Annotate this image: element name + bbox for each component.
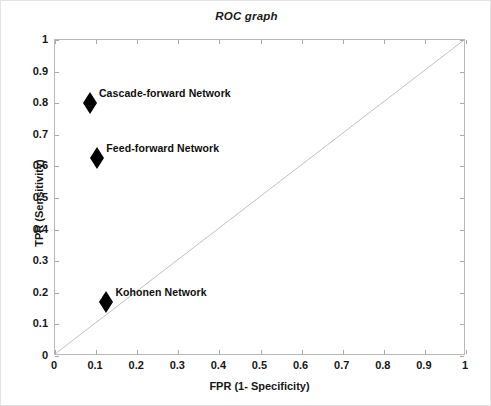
y-tick-mark	[55, 166, 59, 167]
y-tick-mark	[55, 324, 59, 325]
x-tick-label: 0.5	[252, 359, 267, 371]
x-tick-mark	[302, 350, 303, 354]
y-tick-mark	[55, 261, 59, 262]
y-tick-mark-right	[460, 356, 464, 357]
y-tick-mark-right	[460, 72, 464, 73]
y-tick-mark-right	[460, 230, 464, 231]
point-annotation-label: Feed-forward Network	[106, 142, 219, 154]
x-tick-label: 0	[51, 359, 57, 371]
point-annotation-label: Cascade-forward Network	[99, 87, 231, 99]
x-tick-mark-top	[302, 40, 303, 44]
y-tick-mark-right	[460, 198, 464, 199]
y-tick-mark	[55, 293, 59, 294]
y-tick-mark-right	[460, 40, 464, 41]
y-tick-mark-right	[460, 261, 464, 262]
point-annotation-label: Kohonen Network	[115, 286, 206, 298]
x-tick-mark-top	[219, 40, 220, 44]
y-tick-mark	[55, 135, 59, 136]
x-tick-mark	[219, 350, 220, 354]
x-tick-mark-top	[178, 40, 179, 44]
y-tick-label: 0.9	[33, 65, 48, 77]
y-axis-title: TPR (Sensitivity)	[33, 103, 45, 303]
x-tick-label: 0.9	[416, 359, 431, 371]
x-tick-mark	[137, 350, 138, 354]
x-tick-mark-top	[96, 40, 97, 44]
x-tick-label: 0.2	[129, 359, 144, 371]
y-tick-label: 1	[42, 33, 48, 45]
plot-area: Cascade-forward NetworkFeed-forward Netw…	[54, 39, 465, 355]
y-tick-label: 0.1	[33, 317, 48, 329]
x-tick-mark-top	[261, 40, 262, 44]
y-tick-mark	[55, 72, 59, 73]
x-tick-mark	[261, 350, 262, 354]
roc-chart-figure: ROC graph Cascade-forward NetworkFeed-fo…	[0, 0, 491, 406]
y-tick-mark	[55, 40, 59, 41]
x-tick-mark-top	[466, 40, 467, 44]
y-tick-mark	[55, 103, 59, 104]
y-tick-mark-right	[460, 324, 464, 325]
y-tick-mark-right	[460, 103, 464, 104]
x-tick-mark-top	[137, 40, 138, 44]
x-tick-label: 0.3	[170, 359, 185, 371]
y-tick-mark	[55, 356, 59, 357]
x-tick-mark	[384, 350, 385, 354]
y-tick-mark-right	[460, 166, 464, 167]
x-tick-mark	[343, 350, 344, 354]
y-tick-mark	[55, 230, 59, 231]
x-tick-mark-top	[343, 40, 344, 44]
y-tick-mark	[55, 198, 59, 199]
x-tick-label: 0.1	[87, 359, 102, 371]
x-tick-mark	[96, 350, 97, 354]
x-tick-label: 0.7	[334, 359, 349, 371]
plot-inner: Cascade-forward NetworkFeed-forward Netw…	[55, 40, 464, 354]
x-tick-label: 0.6	[293, 359, 308, 371]
x-tick-mark-top	[384, 40, 385, 44]
x-tick-mark	[425, 350, 426, 354]
chart-title: ROC graph	[1, 10, 491, 22]
y-tick-mark-right	[460, 135, 464, 136]
x-tick-label: 0.4	[211, 359, 226, 371]
x-tick-mark	[466, 350, 467, 354]
y-tick-mark-right	[460, 293, 464, 294]
x-tick-mark	[178, 350, 179, 354]
x-axis-title: FPR (1- Specificity)	[54, 380, 465, 392]
y-tick-label: 0	[42, 349, 48, 361]
x-tick-mark	[55, 350, 56, 354]
x-tick-label: 1	[462, 359, 468, 371]
x-tick-label: 0.8	[375, 359, 390, 371]
x-tick-mark-top	[425, 40, 426, 44]
